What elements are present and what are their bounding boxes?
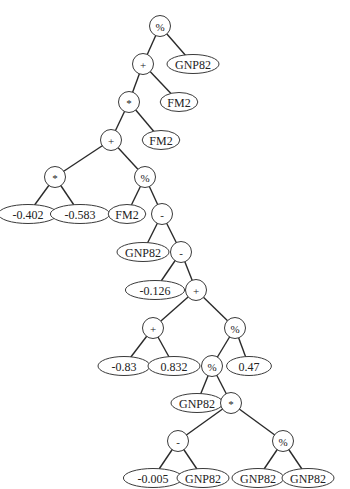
terminal-node: -0.402 <box>0 205 58 224</box>
terminal-label: GNP82 <box>175 58 211 72</box>
terminal-label: -0.402 <box>13 208 44 222</box>
operator-label: + <box>193 285 199 297</box>
operator-label: % <box>140 172 149 184</box>
terminal-label: FM2 <box>149 134 172 148</box>
terminal-node: FM2 <box>142 131 180 150</box>
operator-node: - <box>171 242 192 263</box>
terminal-node: -0.583 <box>50 205 109 224</box>
operator-label: - <box>160 209 164 221</box>
terminal-node: GNP82 <box>167 55 219 74</box>
terminal-label: 0.47 <box>239 360 260 374</box>
operator-node: + <box>101 130 122 151</box>
operator-node: * <box>45 167 66 188</box>
operator-label: + <box>150 323 156 335</box>
terminal-node: FM2 <box>108 205 146 224</box>
operator-label: - <box>176 436 180 448</box>
operator-node: - <box>152 204 173 225</box>
operator-node: + <box>133 54 154 75</box>
terminal-node: GNP82 <box>177 469 229 488</box>
operator-label: % <box>278 436 287 448</box>
operator-node: + <box>186 280 207 301</box>
operator-node: * <box>221 393 242 414</box>
operator-node: - <box>168 431 189 452</box>
terminal-label: -0.005 <box>138 472 169 486</box>
operator-label: + <box>140 59 146 71</box>
terminal-node: 0.47 <box>227 357 272 376</box>
terminal-label: GNP82 <box>240 472 276 486</box>
operator-label: % <box>155 21 164 33</box>
operator-node: % <box>150 16 171 37</box>
terminal-label: -0.583 <box>65 208 96 222</box>
operator-node: % <box>202 356 223 377</box>
operator-node: + <box>143 318 164 339</box>
terminal-label: GNP82 <box>125 246 161 260</box>
terminal-node: 0.832 <box>148 357 200 376</box>
terminal-label: FM2 <box>115 208 138 222</box>
terminal-node: FM2 <box>160 93 198 112</box>
terminal-label: -0.83 <box>112 360 137 374</box>
operator-label: * <box>228 398 234 410</box>
terminal-label: -0.126 <box>140 284 171 298</box>
terminal-label: FM2 <box>167 96 190 110</box>
operator-label: - <box>179 247 183 259</box>
operator-node: % <box>135 167 156 188</box>
operator-label: * <box>126 97 132 109</box>
terminal-label: GNP82 <box>185 472 221 486</box>
operator-node: % <box>225 318 246 339</box>
terminal-node: GNP82 <box>171 394 223 413</box>
operator-label: * <box>52 172 58 184</box>
terminal-label: GNP82 <box>290 472 326 486</box>
terminal-label: 0.832 <box>161 360 188 374</box>
operator-label: % <box>230 323 239 335</box>
operator-node: * <box>119 92 140 113</box>
operator-label: % <box>207 361 216 373</box>
terminal-node: GNP82 <box>282 469 334 488</box>
operator-label: + <box>108 135 114 147</box>
tree-nodes: %+GNP82*FM2+FM2*%-0.402-0.583FM2-GNP82--… <box>0 16 334 488</box>
terminal-node: -0.83 <box>98 357 150 376</box>
terminal-node: GNP82 <box>117 243 169 262</box>
operator-node: % <box>273 431 294 452</box>
terminal-node: -0.005 <box>123 469 182 488</box>
expression-tree-diagram: %+GNP82*FM2+FM2*%-0.402-0.583FM2-GNP82--… <box>0 0 350 489</box>
terminal-label: GNP82 <box>179 397 215 411</box>
terminal-node: -0.126 <box>125 281 184 300</box>
terminal-node: GNP82 <box>232 469 284 488</box>
